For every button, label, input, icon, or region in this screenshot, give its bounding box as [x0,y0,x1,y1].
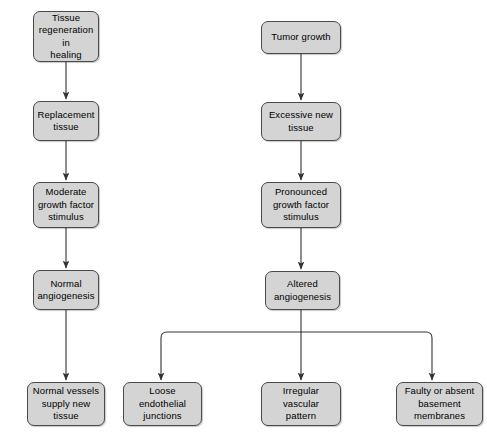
node-label: Tissue regeneration in healing [34,12,98,62]
caption-fragment [5,424,91,432]
node-normal-angiogenesis[interactable]: Normal angiogenesis [33,270,99,310]
node-tumor-growth[interactable]: Tumor growth [261,21,341,54]
node-tissue-regeneration[interactable]: Tissue regeneration in healing [33,11,99,62]
node-label: Faulty or absent basement membranes [402,385,478,423]
node-pronounced-growth-factor-stimulus[interactable]: Pronounced growth factor stimulus [261,182,341,228]
branch-bus-right [301,332,432,380]
node-label: Tumor growth [268,31,333,44]
node-label: Irregular vascular pattern [280,385,322,423]
node-irregular-vascular-pattern[interactable]: Irregular vascular pattern [261,382,341,426]
node-label: Replacement tissue [34,109,97,134]
node-label: Moderate growth factor stimulus [35,186,97,224]
node-label: Normal vessels supply new tissue [30,385,102,423]
node-label: Loose endothelial junctions [136,385,189,423]
node-label: Normal angiogenesis [34,278,97,303]
node-label: Pronounced growth factor stimulus [270,186,332,224]
node-altered-angiogenesis[interactable]: Altered angiogenesis [265,271,340,310]
node-loose-endothelial-junctions[interactable]: Loose endothelial junctions [123,382,202,426]
node-excessive-new-tissue[interactable]: Excessive new tissue [261,102,341,141]
flowchart-canvas: Tissue regeneration in healing Replaceme… [0,0,487,437]
node-label: Altered angiogenesis [271,278,334,303]
node-moderate-growth-factor-stimulus[interactable]: Moderate growth factor stimulus [33,182,99,228]
node-normal-vessels-supply-new-tissue[interactable]: Normal vessels supply new tissue [27,382,105,426]
node-faulty-or-absent-basement-membranes[interactable]: Faulty or absent basement membranes [396,382,483,426]
node-label: Excessive new tissue [266,109,336,134]
node-replacement-tissue[interactable]: Replacement tissue [33,101,99,141]
branch-bus-left [161,332,301,380]
